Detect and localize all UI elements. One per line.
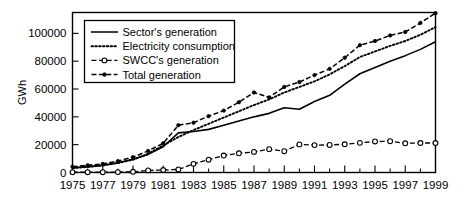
y-axis-ticks: 020000400006000080000100000 [28,27,78,178]
chart-figure: 020000400006000080000100000GWh1975197719… [0,0,459,209]
y-tick-label: 100000 [28,27,66,39]
series-marker [388,34,391,37]
series-marker [131,156,134,159]
series-marker [146,149,149,152]
series-marker [85,170,90,175]
chart-legend: Sector's generationElectricity consumpti… [85,21,236,83]
series-marker [222,109,225,112]
x-tick-label: 1979 [120,179,146,191]
series-marker [283,85,286,88]
series-marker [100,170,105,175]
series-marker [237,101,240,104]
series-marker [71,165,74,168]
series-marker [162,142,165,145]
series-marker [297,142,302,147]
x-tick-label: 1991 [302,179,328,191]
series-marker [101,162,104,165]
legend-label: Sector's generation [123,26,217,38]
series-marker [434,12,437,15]
series-marker [433,141,438,146]
series-marker [70,170,75,175]
series-marker [328,67,331,70]
series-marker [86,164,89,167]
y-tick-label: 60000 [35,83,67,95]
x-tick-label: 1993 [332,179,358,191]
series-marker [207,114,210,117]
series-marker [267,147,272,152]
series-marker [419,21,422,24]
series-marker [313,73,316,76]
series-marker [418,141,423,146]
y-axis-title: GWh [16,80,28,105]
x-tick-label: 1983 [181,179,207,191]
series-marker [327,143,332,148]
series-marker [131,169,136,174]
series-marker [342,142,347,147]
series-marker [282,149,287,154]
y-tick-label: 40000 [35,111,67,123]
y-tick-label: 20000 [35,139,67,151]
x-tick-label: 1997 [392,179,418,191]
legend-marker [103,73,107,77]
series-marker [192,121,195,124]
series-marker [267,96,270,99]
x-tick-label: 1987 [241,179,267,191]
x-tick-label: 1989 [271,179,297,191]
series-marker [116,159,119,162]
series-marker [358,44,361,47]
x-tick-label: 1999 [423,179,449,191]
y-tick-label: 80000 [35,55,67,67]
series-marker [343,56,346,59]
series-marker [252,91,255,94]
series-marker [221,153,226,158]
y-tick-label: 0 [60,167,66,179]
series-marker [191,161,196,166]
series-marker [403,141,408,146]
series-marker [177,124,180,127]
series-marker [115,170,120,175]
series-marker [252,150,257,155]
series-marker [357,140,362,145]
x-tick-label: 1975 [60,179,86,191]
legend-marker [102,58,107,63]
series-marker [298,80,301,83]
x-tick-label: 1981 [150,179,176,191]
series-marker [373,139,378,144]
series-marker [146,168,151,173]
series-marker [236,151,241,156]
x-tick-label: 1977 [90,179,116,191]
series-marker [388,139,393,144]
series-marker [404,30,407,33]
series-marker [161,168,166,173]
series-marker [312,143,317,148]
x-tick-label: 1985 [211,179,237,191]
legend-label: SWCC's generation [123,54,219,66]
series-marker [176,167,181,172]
line-chart: 020000400006000080000100000GWh1975197719… [0,0,459,209]
legend-label: Electricity consumption [123,40,236,52]
legend-label: Total generation [123,69,201,81]
x-tick-label: 1995 [362,179,388,191]
series-marker [373,39,376,42]
series-marker [206,157,211,162]
